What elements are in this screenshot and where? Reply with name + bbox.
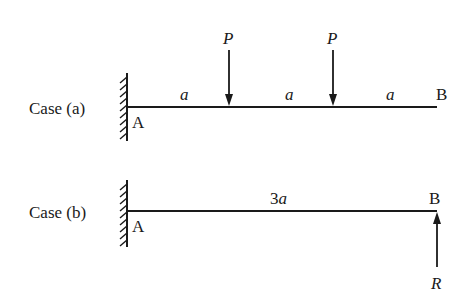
reaction-label: R	[430, 274, 442, 293]
support-label-a: A	[132, 113, 145, 132]
fixed-support-icon	[120, 180, 127, 247]
case-a-label: Case (a)	[29, 99, 85, 118]
case-b-group: Case (b) A B 3a R	[29, 180, 442, 293]
segment-label-1: a	[180, 85, 189, 104]
fixed-support-icon	[120, 73, 127, 141]
end-label-b: B	[429, 189, 440, 208]
span-label: 3a	[270, 189, 287, 208]
load-arrow-down-icon	[329, 50, 337, 106]
segment-label-3: a	[386, 85, 395, 104]
reaction-arrow-up-icon	[433, 212, 441, 267]
segment-label-2: a	[285, 85, 294, 104]
load-label-2: P	[326, 29, 337, 48]
support-label-a: A	[132, 217, 145, 236]
case-a-group: Case (a) A B a a a	[29, 29, 447, 141]
case-b-label: Case (b)	[29, 203, 86, 222]
load-arrow-down-icon	[225, 50, 233, 106]
load-label-1: P	[222, 29, 233, 48]
end-label-b: B	[436, 85, 447, 104]
beam-diagram: Case (a) A B a a a	[0, 0, 465, 300]
